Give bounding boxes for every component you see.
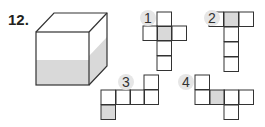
net-2-cell (224, 42, 239, 57)
net-1-shaded-face (157, 26, 172, 41)
net-2-shaded-face (224, 12, 239, 27)
figure (0, 0, 265, 127)
cube-top-right-edge (89, 13, 107, 32)
net-4-cell (195, 90, 210, 105)
net-2-cell (239, 12, 254, 27)
net-3-cell (144, 75, 159, 90)
net-4-cell (224, 105, 239, 120)
cube-side-shade (89, 37, 107, 85)
net-label-3: 3 (118, 74, 134, 90)
net-1-cell (172, 26, 187, 41)
net-label-2: 2 (204, 10, 220, 26)
net-2-cell (224, 57, 239, 72)
net-3-cell (101, 90, 116, 105)
net-label-4: 4 (178, 74, 194, 90)
net-4-shaded-face (210, 90, 225, 105)
net-1-cell (157, 41, 172, 56)
net-3-cell (116, 90, 131, 105)
net-label-1: 1 (140, 10, 156, 26)
net-3-cell (144, 90, 159, 105)
net-1-cell (143, 26, 158, 41)
net-3-shaded-face (101, 105, 116, 120)
net-3-cell (130, 90, 145, 105)
net-4-cell (239, 90, 254, 105)
net-2-cell (224, 27, 239, 42)
net-4-cell (195, 75, 210, 90)
net-1-cell (157, 12, 172, 27)
cube-front-shade (36, 60, 89, 85)
net-1-cell (157, 56, 172, 71)
net-4-cell (224, 90, 239, 105)
